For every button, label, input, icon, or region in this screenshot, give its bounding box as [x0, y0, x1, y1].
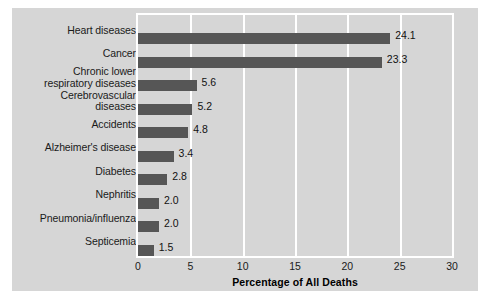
bar: [138, 151, 174, 162]
bar-value-label: 2.0: [164, 217, 179, 229]
bar-value-label: 3.4: [179, 147, 194, 159]
category-label-line: Accidents: [12, 119, 136, 131]
bar: [138, 57, 382, 68]
category-label: Cancer: [12, 48, 136, 60]
x-axis-tick-labels: 051015202530: [136, 260, 454, 276]
bar-row: 3.4: [138, 145, 452, 169]
category-label-line: Cancer: [12, 48, 136, 60]
bar: [138, 80, 197, 91]
x-tick-label: 20: [341, 260, 353, 272]
x-tick-label: 10: [237, 260, 249, 272]
category-label: Chronic lowerrespiratory diseases: [12, 66, 136, 89]
bar: [138, 198, 159, 209]
bar-row: 2.8: [138, 168, 452, 192]
bar-row: 2.0: [138, 192, 452, 216]
plot-area: 24.123.35.65.24.83.42.82.02.01.5: [136, 13, 454, 258]
category-label: Cerebrovasculardiseases: [12, 90, 136, 113]
category-label: Accidents: [12, 119, 136, 131]
bar: [138, 221, 159, 232]
bar-row: 4.8: [138, 121, 452, 145]
bar-value-label: 4.8: [193, 123, 208, 135]
plot-inner: 24.123.35.65.24.83.42.82.02.01.5: [138, 15, 452, 256]
bar-value-label: 5.2: [197, 100, 212, 112]
bar: [138, 245, 154, 256]
bar-row: 1.5: [138, 239, 452, 263]
category-label-line: Chronic lower: [12, 66, 136, 78]
bar-row: 5.6: [138, 74, 452, 98]
bar-value-label: 2.8: [172, 170, 187, 182]
category-label: Heart diseases: [12, 25, 136, 37]
category-label: Alzheimer's disease: [12, 142, 136, 154]
category-label-line: Alzheimer's disease: [12, 142, 136, 154]
category-label-line: Diabetes: [12, 166, 136, 178]
category-label-line: respiratory diseases: [12, 78, 136, 90]
category-label-line: diseases: [12, 101, 136, 113]
category-axis: Heart diseases Cancer Chronic lowerrespi…: [12, 13, 136, 258]
x-tick-label: 0: [135, 260, 141, 272]
bar-value-label: 23.3: [387, 53, 407, 65]
category-label-line: Heart diseases: [12, 25, 136, 37]
bar-value-label: 1.5: [159, 241, 174, 253]
category-label: Nephritis: [12, 189, 136, 201]
category-label: Pneumonia/influenza: [12, 213, 136, 225]
bar: [138, 127, 188, 138]
x-tick-label: 30: [446, 260, 458, 272]
category-label-line: Nephritis: [12, 189, 136, 201]
bar-row: 2.0: [138, 215, 452, 239]
bar-value-label: 5.6: [202, 76, 217, 88]
category-label-line: Pneumonia/influenza: [12, 213, 136, 225]
x-axis-title: Percentage of All Deaths: [136, 276, 454, 288]
category-label-line: Septicemia: [12, 236, 136, 248]
x-tick-label: 5: [187, 260, 193, 272]
bar-row: 23.3: [138, 51, 452, 75]
bar-row: 5.2: [138, 98, 452, 122]
chart-panel: Heart diseases Cancer Chronic lowerrespi…: [12, 8, 478, 291]
bar-value-label: 2.0: [164, 194, 179, 206]
category-label: Septicemia: [12, 236, 136, 248]
bar: [138, 33, 390, 44]
bar-row: 24.1: [138, 27, 452, 51]
x-tick-label: 15: [289, 260, 301, 272]
category-label: Diabetes: [12, 166, 136, 178]
x-tick-label: 25: [394, 260, 406, 272]
bar: [138, 174, 167, 185]
bar: [138, 104, 192, 115]
bar-value-label: 24.1: [395, 29, 415, 41]
